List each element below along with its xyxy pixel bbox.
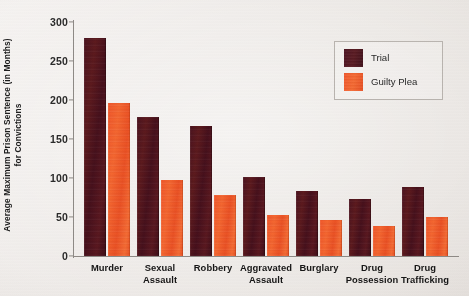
y-tick-label: 300 — [50, 16, 68, 28]
legend: Trial Guilty Plea — [334, 41, 443, 100]
bar-trial — [243, 177, 265, 256]
y-tick-label: 0 — [62, 250, 68, 262]
bar-trial — [296, 191, 318, 256]
bar-guilty-plea — [426, 217, 448, 256]
bar-guilty-plea — [214, 195, 236, 256]
y-tick-label: 50 — [56, 211, 68, 223]
legend-label-guilty-plea: Guilty Plea — [371, 76, 417, 87]
x-axis-line — [73, 256, 459, 257]
bar-trial — [402, 187, 424, 256]
y-tick-label: 200 — [50, 94, 68, 106]
bar-trial — [349, 199, 371, 256]
y-axis-title: Average Maximum Prison Sentence (in Mont… — [2, 18, 26, 252]
bar-group — [243, 22, 289, 256]
y-tick-label: 100 — [50, 172, 68, 184]
bar-group — [190, 22, 236, 256]
legend-swatch-guilty-plea — [344, 73, 363, 91]
x-category-label: Drug Trafficking — [389, 262, 461, 285]
y-tick-label: 250 — [50, 55, 68, 67]
bar-chart: Average Maximum Prison Sentence (in Mont… — [0, 0, 469, 296]
bar-guilty-plea — [161, 180, 183, 256]
bar-group — [84, 22, 130, 256]
bar-group — [137, 22, 183, 256]
legend-swatch-trial — [344, 49, 363, 67]
bar-trial — [190, 126, 212, 256]
y-tick-label: 150 — [50, 133, 68, 145]
bar-guilty-plea — [267, 215, 289, 256]
bar-trial — [84, 38, 106, 256]
y-axis-title-line1: Average Maximum Prison Sentence (in Mont… — [2, 38, 12, 231]
bar-guilty-plea — [320, 220, 342, 256]
bar-guilty-plea — [373, 226, 395, 256]
bar-guilty-plea — [108, 103, 130, 256]
y-axis-title-line2: for Convictions — [13, 18, 24, 252]
legend-label-trial: Trial — [371, 52, 389, 63]
bar-trial — [137, 117, 159, 256]
